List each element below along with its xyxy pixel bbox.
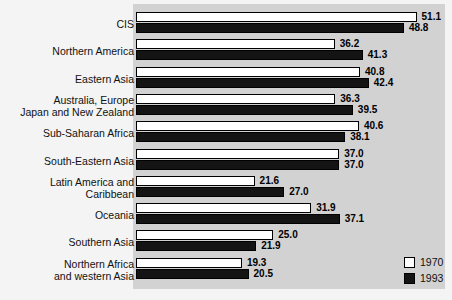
bar-value-1970: 40.8 <box>365 66 384 77</box>
bar-1970 <box>136 67 360 77</box>
bar-1993 <box>136 105 353 115</box>
bar-value-1970: 25.0 <box>278 229 297 240</box>
chart-row: Eastern Asia40.842.4 <box>0 67 452 93</box>
bar-value-1993: 42.4 <box>374 77 393 88</box>
legend-label-1993: 1993 <box>420 272 443 284</box>
bar-value-1970: 40.6 <box>364 120 383 131</box>
white-square-icon <box>404 257 415 268</box>
bar-value-1993: 39.5 <box>358 104 377 115</box>
chart-rows: CIS51.148.8Northern America36.241.3Easte… <box>0 0 452 300</box>
bar-1970 <box>136 12 417 22</box>
bar-1970 <box>136 149 339 159</box>
bar-1993 <box>136 78 369 88</box>
category-label: Latin America and Caribbean <box>0 176 134 201</box>
bar-1993 <box>136 50 363 60</box>
category-label: Southern Asia <box>0 236 134 249</box>
category-label: Northern Africa and western Asia <box>0 258 134 283</box>
bar-1970 <box>136 94 335 104</box>
bar-1993 <box>136 187 284 197</box>
bar-1970 <box>136 203 311 213</box>
bar-1970 <box>136 258 242 268</box>
bar-value-1993: 38.1 <box>350 131 369 142</box>
bar-1970 <box>136 176 255 186</box>
category-label: CIS <box>0 18 134 31</box>
chart-row: Southern Asia25.021.9 <box>0 230 452 256</box>
bar-1970 <box>136 39 335 49</box>
bar-value-1970: 31.9 <box>316 202 335 213</box>
category-label: Northern America <box>0 45 134 58</box>
bar-value-1993: 21.9 <box>261 240 280 251</box>
chart-row: Australia, Europe Japan and New Zealand3… <box>0 94 452 120</box>
bar-1993 <box>136 269 249 279</box>
bar-value-1970: 36.2 <box>340 38 359 49</box>
chart-row: Latin America and Caribbean21.627.0 <box>0 176 452 202</box>
category-label: Oceania <box>0 209 134 222</box>
horizontal-bar-chart: CIS51.148.8Northern America36.241.3Easte… <box>0 0 452 300</box>
chart-row: CIS51.148.8 <box>0 12 452 38</box>
bar-value-1970: 37.0 <box>344 148 363 159</box>
bar-1993 <box>136 23 404 33</box>
chart-row: Northern Africa and western Asia19.320.5 <box>0 258 452 284</box>
bar-value-1993: 20.5 <box>254 268 273 279</box>
category-label: Eastern Asia <box>0 73 134 86</box>
legend-label-1970: 1970 <box>420 256 443 268</box>
bar-value-1993: 27.0 <box>289 186 308 197</box>
chart-row: South-Eastern Asia37.037.0 <box>0 149 452 175</box>
bar-value-1993: 41.3 <box>368 49 387 60</box>
black-square-icon <box>404 273 415 284</box>
bar-1970 <box>136 121 359 131</box>
bar-1993 <box>136 241 256 251</box>
bar-value-1970: 51.1 <box>422 11 441 22</box>
chart-row: Northern America36.241.3 <box>0 39 452 65</box>
legend-item-1993: 1993 <box>404 272 450 286</box>
bar-value-1993: 48.8 <box>409 22 428 33</box>
bar-value-1970: 21.6 <box>260 175 279 186</box>
bar-value-1970: 19.3 <box>247 257 266 268</box>
chart-row: Sub-Saharan Africa40.638.1 <box>0 121 452 147</box>
category-label: Australia, Europe Japan and New Zealand <box>0 94 134 119</box>
bar-value-1993: 37.0 <box>344 159 363 170</box>
bar-1993 <box>136 132 345 142</box>
category-label: South-Eastern Asia <box>0 155 134 168</box>
bar-value-1970: 36.3 <box>340 93 359 104</box>
chart-row: Oceania31.937.1 <box>0 203 452 229</box>
bar-value-1993: 37.1 <box>345 213 364 224</box>
legend-item-1970: 1970 <box>404 256 450 270</box>
bar-1993 <box>136 160 339 170</box>
category-label: Sub-Saharan Africa <box>0 127 134 140</box>
bar-1970 <box>136 230 273 240</box>
chart-legend: 1970 1993 <box>404 256 450 288</box>
bar-1993 <box>136 214 340 224</box>
